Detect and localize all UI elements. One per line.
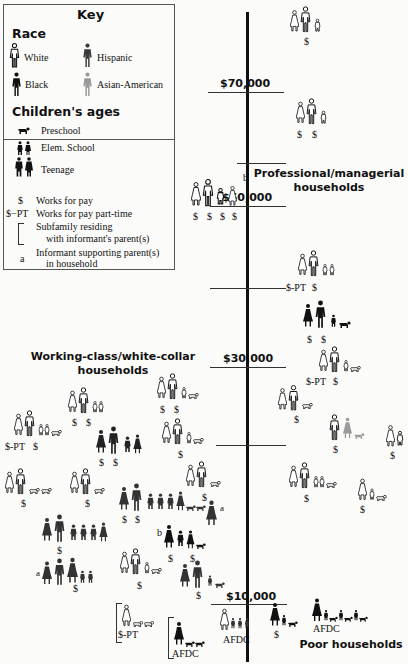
marker-a: a: [36, 568, 40, 578]
family-white-37k: [278, 385, 318, 413]
afdc-label: AFDC: [313, 623, 340, 634]
works-label: $: [274, 629, 279, 640]
family-black-poor-subfamily: [174, 620, 210, 650]
works-label: $: [137, 580, 142, 591]
family-white-wc4: [162, 418, 208, 448]
works-label: $: [304, 36, 309, 47]
hispanic-adult-icon: [82, 43, 93, 68]
works-label: $: [135, 514, 140, 525]
works-part-time-label: $-PT: [5, 441, 25, 452]
works-label: $: [390, 450, 395, 461]
works-label: $: [307, 334, 312, 345]
family-white-50k: [298, 250, 340, 280]
family-white-wc3: [14, 410, 66, 440]
works-part-time-label: $-PT: [286, 282, 306, 293]
works-label: $: [360, 504, 365, 515]
family-white-25k: [289, 462, 341, 492]
works-label: $: [73, 583, 78, 594]
legend-race-black: Black: [25, 79, 48, 90]
works-label: $: [193, 211, 198, 222]
works-label: $: [220, 211, 225, 222]
works-label: $: [207, 211, 212, 222]
family-white-wc2: [157, 373, 203, 403]
asian-american-adult-icon: [82, 72, 93, 97]
family-hispanic-large: [119, 483, 219, 515]
legend-race-asian-american: Asian-American: [97, 79, 163, 90]
section-professional-line1: Professional/managerial: [250, 167, 408, 181]
legend-label-subfamily-2: with informant's parent(s): [46, 233, 149, 244]
works-label: $: [297, 129, 302, 140]
family-white-wc1: [68, 387, 110, 417]
works-label: $: [312, 282, 317, 293]
legend-label-a-1: Informant supporting parent(s): [36, 247, 159, 258]
family-white-wc6: [70, 468, 116, 498]
works-label: $: [21, 498, 26, 509]
tick-label-10000: $10,000: [226, 590, 276, 603]
white-adult-icon: [9, 43, 20, 68]
works-label: $: [294, 414, 299, 425]
afdc-label: AFDC: [223, 634, 250, 645]
works-label: $: [178, 449, 183, 460]
family-white-hispanic-poor: [220, 608, 254, 634]
works-label: $: [232, 211, 237, 222]
works-label: $: [72, 417, 77, 428]
family-white-top: [290, 6, 330, 36]
works-label: $: [122, 514, 127, 525]
tick-20000: [216, 445, 286, 446]
family-white-asian: [329, 414, 371, 444]
tick-label-30000: $30,000: [223, 352, 273, 365]
section-poor: Poor households: [294, 638, 408, 652]
legend-race-white: White: [24, 52, 48, 63]
works-label: $: [85, 498, 90, 509]
works-label: $: [86, 417, 91, 428]
preschool-child-icon: [18, 127, 30, 134]
legend-label-subfamily-1: Subfamily residing: [36, 221, 112, 232]
marker-b: b: [243, 172, 248, 183]
works-label: $: [174, 404, 179, 415]
legend-symbol-pt: $−PT: [6, 208, 28, 219]
marker-a: a: [220, 503, 224, 513]
family-white-40k: [319, 346, 365, 376]
tick-60000: [237, 163, 286, 164]
section-professional-line2: households: [250, 181, 408, 195]
legend-symbol-a: a: [20, 253, 24, 264]
works-label: $: [57, 545, 62, 556]
works-label: $: [113, 457, 118, 468]
works-label: $: [321, 334, 326, 345]
legend-spacer: [3, 268, 175, 280]
tick-40000: [210, 288, 286, 289]
family-white-single-mom: [358, 478, 394, 504]
works-part-time-label: $-PT: [118, 629, 138, 640]
section-working-line1: Working-class/white-collar: [22, 350, 204, 364]
family-hispanic-a: [42, 557, 98, 589]
afdc-label: AFDC: [172, 648, 199, 659]
legend-label-pt: Works for pay part-time: [36, 208, 132, 219]
works-label: $: [196, 590, 201, 601]
works-label: $: [333, 376, 338, 387]
family-white-far-right: [386, 423, 408, 451]
family-black-45k: [303, 300, 355, 332]
family-hispanic-wc: [96, 426, 146, 456]
legend-symbol-works: $: [18, 195, 23, 206]
legend-label-works: Works for pay: [36, 195, 93, 206]
works-label: $: [160, 404, 165, 415]
black-adult-icon: [11, 72, 22, 97]
family-white-wc8: [120, 548, 166, 578]
legend-race-hispanic: Hispanic: [97, 52, 133, 63]
tick-70000: [208, 92, 284, 93]
works-label: $: [33, 441, 38, 452]
family-white-wc5: [5, 468, 57, 498]
works-label: $: [304, 493, 309, 504]
legend-race-heading: Race: [12, 26, 46, 41]
family-black-poor-large: [312, 598, 378, 624]
legend-ages-heading: Children's ages: [12, 104, 120, 119]
family-white-70k: [296, 98, 336, 128]
works-label: $: [99, 457, 104, 468]
family-white-60k: [191, 177, 247, 209]
works-label: $: [168, 553, 173, 564]
legend-title: Key: [77, 7, 104, 22]
income-axis: [246, 12, 249, 662]
works-label: $: [312, 129, 317, 140]
works-label: $: [333, 444, 338, 455]
marker-b: b: [157, 527, 162, 538]
